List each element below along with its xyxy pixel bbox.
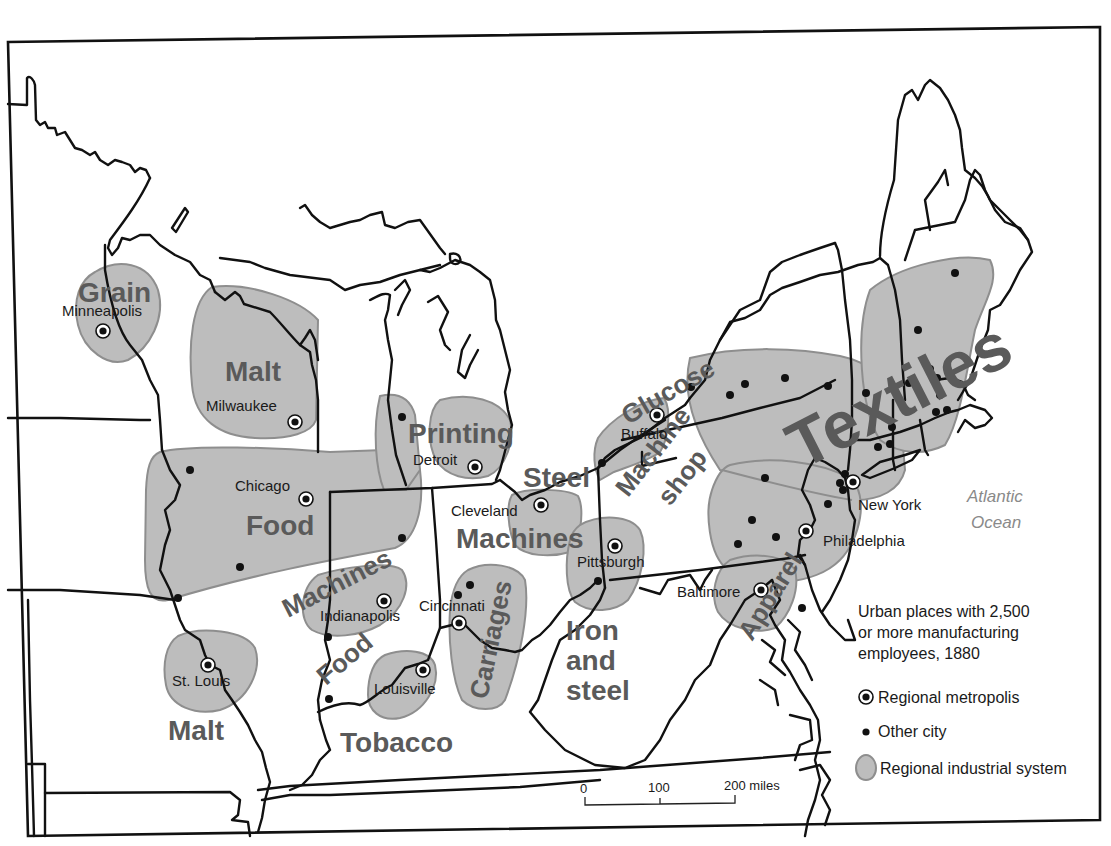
legend-metropolis: Regional metropolis bbox=[878, 689, 1019, 706]
scale-tick-100: 100 bbox=[648, 780, 670, 795]
label-steel: Steel bbox=[523, 462, 590, 493]
legend-other-city: Other city bbox=[878, 723, 946, 740]
label-food-chicago: Food bbox=[246, 510, 314, 541]
metropolis-symbol-icon bbox=[859, 690, 873, 704]
scale-bar: 0 100 200 miles bbox=[580, 778, 780, 805]
metro-louisville bbox=[416, 663, 430, 677]
legend: Urban places with 2,500 or more manufact… bbox=[856, 603, 1067, 780]
ocean-label-line2: Ocean bbox=[971, 513, 1021, 532]
city-baltimore: Baltimore bbox=[677, 583, 740, 600]
label-machines-cleveland: Machines bbox=[456, 523, 584, 554]
ocean-label: Atlantic Ocean bbox=[966, 487, 1023, 532]
industrial-map-1880: Grain Malt Printing Food Steel Machines … bbox=[0, 0, 1111, 846]
label-printing: Printing bbox=[408, 418, 514, 449]
legend-industrial-system: Regional industrial system bbox=[880, 760, 1067, 777]
city-pittsburgh: Pittsburgh bbox=[577, 553, 645, 570]
city-minneapolis: Minneapolis bbox=[62, 302, 142, 319]
city-cincinnati: Cincinnati bbox=[419, 597, 485, 614]
metro-cleveland bbox=[534, 498, 548, 512]
label-iron-line2: and bbox=[566, 645, 616, 676]
metro-cincinnati bbox=[452, 616, 466, 630]
city-detroit: Detroit bbox=[413, 451, 458, 468]
label-malt-st-louis: Malt bbox=[168, 715, 224, 746]
metro-philadelphia bbox=[799, 524, 813, 538]
metro-pittsburgh bbox=[608, 539, 622, 553]
city-buffalo: Buffalo bbox=[621, 425, 667, 442]
label-tobacco: Tobacco bbox=[340, 727, 453, 758]
legend-heading-line1: Urban places with 2,500 bbox=[858, 603, 1030, 620]
metro-st-louis bbox=[201, 658, 215, 672]
label-iron-line3: steel bbox=[566, 675, 630, 706]
legend-heading-line3: employees, 1880 bbox=[858, 645, 980, 662]
ocean-label-line1: Atlantic bbox=[966, 487, 1023, 506]
city-chicago: Chicago bbox=[235, 477, 290, 494]
label-malt-wisconsin: Malt bbox=[225, 356, 281, 387]
metro-indianapolis bbox=[377, 594, 391, 608]
scale-tick-200: 200 miles bbox=[724, 778, 780, 793]
other-city-symbol-icon bbox=[862, 728, 869, 735]
city-louisville: Louisville bbox=[374, 680, 436, 697]
city-new-york: New York bbox=[858, 496, 922, 513]
metro-minneapolis bbox=[96, 324, 110, 338]
industrial-system-swatch-icon bbox=[856, 755, 876, 780]
legend-heading-line2: or more manufacturing bbox=[858, 624, 1019, 641]
city-milwaukee: Milwaukee bbox=[206, 397, 277, 414]
metro-new-york bbox=[846, 475, 860, 489]
metro-chicago bbox=[299, 492, 313, 506]
label-iron-line1: Iron bbox=[566, 615, 619, 646]
city-indianapolis: Indianapolis bbox=[320, 607, 400, 624]
metro-detroit bbox=[468, 460, 482, 474]
city-cleveland: Cleveland bbox=[451, 502, 518, 519]
city-st-louis: St. Louis bbox=[172, 672, 230, 689]
metro-milwaukee bbox=[288, 415, 302, 429]
city-philadelphia: Philadelphia bbox=[823, 532, 905, 549]
scale-tick-0: 0 bbox=[580, 781, 587, 796]
